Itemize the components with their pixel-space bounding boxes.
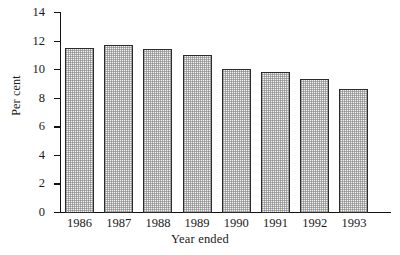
x-tick-label: 1991 (263, 216, 288, 231)
x-axis-label: Year ended (0, 232, 400, 247)
y-tick-label: 6 (39, 120, 45, 133)
bar (65, 48, 94, 214)
x-tick-label: 1992 (302, 216, 327, 231)
y-tick-mark: 12 (54, 41, 60, 42)
x-tick-label: 1989 (185, 216, 210, 231)
y-axis-label: Per cent (9, 56, 24, 136)
y-tick-mark: 10 (54, 69, 60, 70)
bar (300, 79, 329, 213)
x-tick-label: 1986 (67, 216, 92, 231)
x-tick-label: 1987 (106, 216, 131, 231)
y-tick-mark: 8 (54, 98, 60, 99)
y-tick-label: 14 (33, 6, 46, 19)
y-tick-mark: 14 (54, 12, 60, 13)
bar (183, 55, 212, 214)
y-tick-label: 12 (33, 34, 46, 47)
bar (339, 89, 368, 213)
y-tick-label: 4 (39, 149, 45, 162)
bar (222, 69, 251, 213)
y-tick-label: 8 (39, 91, 45, 104)
y-tick-label: 0 (39, 206, 45, 219)
x-tick-label: 1990 (224, 216, 249, 231)
x-tick-label: 1988 (145, 216, 170, 231)
bar (104, 45, 133, 214)
bar (261, 72, 290, 213)
y-tick-mark: 4 (54, 155, 60, 156)
plot-area: 02468101214 1986198719881989199019911992… (60, 12, 392, 214)
y-tick-mark: 2 (54, 183, 60, 184)
y-tick-mark: 0 (54, 212, 60, 213)
bar (143, 49, 172, 213)
y-tick-label: 2 (39, 177, 45, 190)
y-tick-mark: 6 (54, 126, 60, 127)
y-axis-line (60, 12, 61, 212)
y-tick-label: 10 (33, 63, 46, 76)
bar-chart-figure: Per cent 02468101214 1986198719881989199… (0, 0, 400, 255)
x-tick-label: 1993 (341, 216, 366, 231)
